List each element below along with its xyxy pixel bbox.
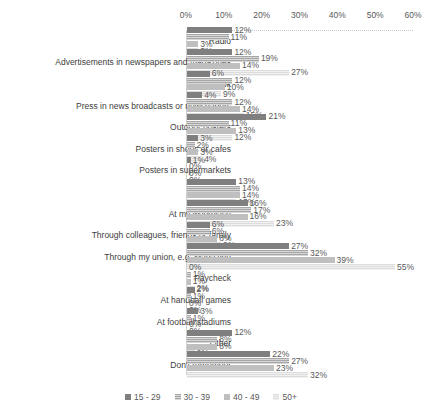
bar-value-label: 32% [308,370,327,380]
bar[interactable] [187,99,232,105]
legend-swatch-icon [273,394,279,400]
bar[interactable] [187,142,195,148]
bar[interactable] [187,243,289,249]
bar-value-label: 21% [266,111,285,121]
bar[interactable] [187,207,251,213]
bar[interactable] [187,71,210,77]
bar[interactable] [187,41,198,47]
x-axis-tick-1: 10% [215,10,232,20]
bar[interactable] [187,351,270,357]
bar[interactable] [187,236,217,242]
bar[interactable] [187,365,274,371]
legend-label: 30 - 39 [184,392,210,402]
bar[interactable] [187,222,210,228]
chart-row: Through my union, e.g. Magazine27%32%39%… [0,246,422,268]
chart-legend: 15 - 2930 - 3940 - 4950+ [0,392,422,402]
x-axis-tick-labels: 0%10%20%30%40%50%60% [0,10,422,24]
bar[interactable] [187,192,240,198]
chart-row: Don't remember22%27%23%32% [0,354,422,376]
bar[interactable] [187,106,240,112]
chart-row: Paycheck0%1%1%2% [0,268,422,290]
bar[interactable] [187,186,240,192]
legend-item-3[interactable]: 50+ [273,392,296,402]
legend-item-1[interactable]: 30 - 39 [175,392,210,402]
legend-swatch-icon [125,394,131,400]
bar[interactable] [187,179,236,185]
legend-label: 50+ [282,392,296,402]
bar[interactable] [187,372,308,378]
category-label: At handball games [52,295,236,305]
x-axis-tick-4: 40% [329,10,346,20]
chart-row: Posters in shops or cafes3%2%3%4% [0,138,422,160]
x-axis-tick-5: 50% [367,10,384,20]
bar[interactable] [187,114,266,120]
category-label: Posters in supermarkets [52,165,236,175]
x-axis-tick-2: 20% [253,10,270,20]
bar-chart: 0%10%20%30%40%50%60% Radio12%11%3%3%Adve… [0,0,422,415]
bar-value-label: 8% [217,341,231,351]
x-axis-tick-0: 0% [180,10,192,20]
bar[interactable] [187,257,335,263]
bar[interactable] [187,250,308,256]
bar[interactable] [187,200,248,206]
legend-swatch-icon [224,394,230,400]
bar[interactable] [187,92,202,98]
legend-swatch-icon [175,394,181,400]
legend-item-2[interactable]: 40 - 49 [224,392,259,402]
bar-value-label: 19% [259,53,278,63]
legend-label: 15 - 29 [134,392,160,402]
bar[interactable] [187,27,232,33]
bar[interactable] [187,121,229,127]
legend-item-0[interactable]: 15 - 29 [125,392,160,402]
bar-value-label: 12% [232,327,251,337]
x-axis-tick-6: 60% [404,10,421,20]
chart-rows: Radio12%11%3%3%Advertisements in newspap… [0,30,422,376]
bar[interactable] [187,337,217,343]
bar[interactable] [187,49,232,55]
category-label: At football stadiums [52,317,236,327]
x-axis-tick-3: 30% [291,10,308,20]
bar-value-label: 11% [229,32,247,42]
legend-label: 40 - 49 [233,392,259,402]
category-label: Paycheck [52,273,236,283]
bar[interactable] [187,229,210,235]
